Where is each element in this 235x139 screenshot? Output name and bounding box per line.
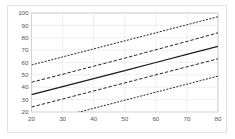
y-axis-tick-labels: 2030405060708090100 (18, 9, 29, 115)
x-axis-tick-labels: 20304050607080 (28, 115, 222, 122)
y-tick-label: 30 (22, 96, 29, 103)
x-tick-label: 30 (59, 115, 66, 122)
x-tick-label: 70 (183, 115, 190, 122)
y-tick-label: 80 (22, 34, 29, 41)
y-tick-label: 90 (22, 22, 29, 29)
regression-chart: 20304050607080 2030405060708090100 (0, 0, 235, 139)
x-tick-label: 50 (121, 115, 128, 122)
x-tick-label: 80 (215, 115, 222, 122)
x-tick-label: 40 (90, 115, 97, 122)
y-tick-label: 50 (22, 71, 29, 78)
y-tick-label: 40 (22, 83, 29, 90)
y-tick-label: 20 (22, 108, 29, 115)
x-tick-label: 20 (28, 115, 35, 122)
y-tick-label: 60 (22, 59, 29, 66)
gridlines (32, 13, 219, 112)
y-tick-label: 100 (18, 9, 29, 16)
y-tick-label: 70 (22, 46, 29, 53)
x-tick-label: 60 (152, 115, 159, 122)
